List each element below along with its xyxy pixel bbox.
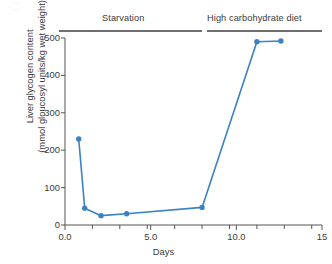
data-point — [98, 213, 103, 218]
x-tick-label: 10.0 — [216, 231, 256, 242]
data-point — [124, 211, 129, 216]
x-tick-label: 5.0 — [131, 231, 171, 242]
series-points — [76, 38, 284, 218]
data-point — [76, 136, 81, 141]
data-point — [82, 205, 87, 210]
data-point — [199, 205, 204, 210]
axis-ticks — [61, 38, 322, 230]
data-point — [278, 38, 283, 43]
x-tick-label: 15 — [302, 231, 332, 242]
axis-lines — [65, 38, 322, 225]
series-line — [79, 41, 281, 216]
data-point — [254, 39, 259, 44]
x-tick-label: 0.0 — [45, 231, 85, 242]
